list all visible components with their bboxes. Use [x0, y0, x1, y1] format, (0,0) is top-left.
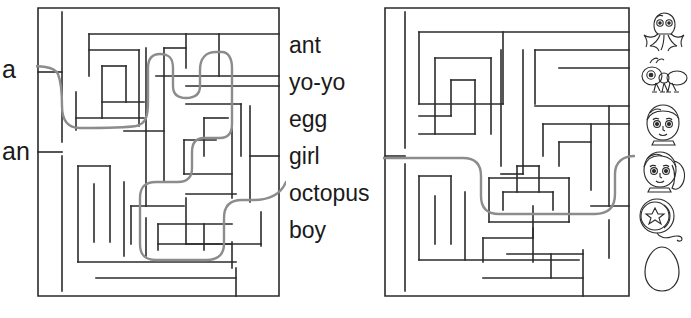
- article-label-a: a: [2, 57, 16, 82]
- word-item-girl[interactable]: girl: [289, 145, 385, 182]
- word-item-egg[interactable]: egg: [289, 108, 385, 145]
- girl-icon[interactable]: [634, 149, 691, 196]
- maze-left-walls: [38, 8, 279, 296]
- maze-right-walls: [385, 8, 629, 296]
- picture-column: [634, 8, 691, 314]
- yoyo-icon[interactable]: [634, 196, 691, 243]
- word-item-octopus[interactable]: octopus: [289, 182, 385, 219]
- word-item-ant[interactable]: ant: [289, 34, 385, 71]
- octopus-icon[interactable]: [634, 8, 691, 55]
- word-item-yoyo[interactable]: yo-yo: [289, 71, 385, 108]
- maze-right[interactable]: [383, 6, 635, 306]
- maze-left[interactable]: [36, 6, 286, 306]
- article-label-an: an: [2, 139, 30, 164]
- worksheet-page: a an: [0, 0, 691, 318]
- egg-icon[interactable]: [634, 243, 691, 290]
- maze-left-solution-path: [36, 52, 286, 260]
- word-list: ant yo-yo egg girl octopus boy: [289, 34, 385, 256]
- word-item-boy[interactable]: boy: [289, 219, 385, 256]
- boy-icon[interactable]: [634, 102, 691, 149]
- ant-icon[interactable]: [634, 55, 691, 102]
